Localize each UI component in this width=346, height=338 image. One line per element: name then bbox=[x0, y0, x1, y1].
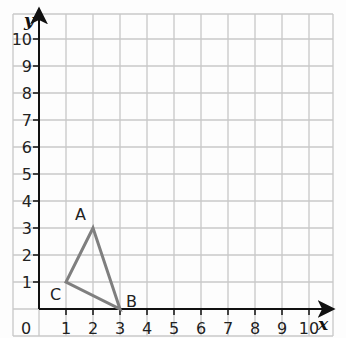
y-tick-label: 5 bbox=[22, 165, 32, 184]
y-tick-label: 3 bbox=[22, 219, 32, 238]
x-tick-label: 6 bbox=[196, 319, 206, 338]
vertex-label-b: B bbox=[126, 292, 137, 311]
vertex-label-c: C bbox=[50, 285, 61, 304]
x-tick-label: 10 bbox=[299, 319, 319, 338]
axes bbox=[39, 10, 332, 309]
y-tick-label: 2 bbox=[22, 246, 32, 265]
x-tick-label: 7 bbox=[223, 319, 233, 338]
y-axis-label: y bbox=[23, 10, 35, 30]
x-tick-label: 2 bbox=[88, 319, 98, 338]
axis-ticks bbox=[33, 39, 309, 315]
x-tick-label: 9 bbox=[277, 319, 287, 338]
y-tick-label: 9 bbox=[22, 57, 32, 76]
x-axis-label: x bbox=[317, 314, 329, 334]
x-tick-label: 5 bbox=[169, 319, 179, 338]
x-tick-label: 3 bbox=[115, 319, 125, 338]
coordinate-grid: 1234567891012345678910 x y 0 ABC bbox=[0, 0, 346, 338]
y-tick-label: 7 bbox=[22, 111, 32, 130]
x-tick-label: 8 bbox=[250, 319, 260, 338]
x-tick-label: 1 bbox=[61, 319, 71, 338]
y-tick-label: 1 bbox=[22, 273, 32, 292]
origin-label: 0 bbox=[21, 319, 31, 338]
x-tick-label: 4 bbox=[142, 319, 152, 338]
y-tick-label: 8 bbox=[22, 84, 32, 103]
y-tick-label: 6 bbox=[22, 138, 32, 157]
vertex-label-a: A bbox=[75, 205, 86, 224]
y-tick-label: 10 bbox=[12, 30, 32, 49]
y-tick-label: 4 bbox=[22, 192, 32, 211]
